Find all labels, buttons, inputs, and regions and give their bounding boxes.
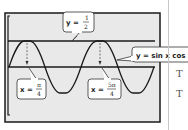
margin-text-fragment: T (176, 68, 183, 79)
function-label: y = sin x cos x (136, 52, 188, 60)
fraction-denominator: 4 (37, 90, 41, 97)
fraction-denominator: 4 (110, 90, 114, 97)
label-y-equals: y = (66, 19, 79, 27)
graph-figure: y = 1 2 y = sin x cos x x = π 4 x = 5π 4 (0, 0, 188, 130)
margin-text-fragment: T (176, 88, 183, 99)
fraction-denominator: 2 (84, 23, 88, 30)
fraction-numerator: 1 (85, 14, 89, 21)
page-column-divider (168, 0, 169, 130)
fraction-numerator: 5π (108, 81, 116, 88)
fraction-numerator: π (37, 81, 41, 88)
label-x-equals: x = (20, 86, 33, 94)
label-x-equals: x = (91, 86, 104, 94)
